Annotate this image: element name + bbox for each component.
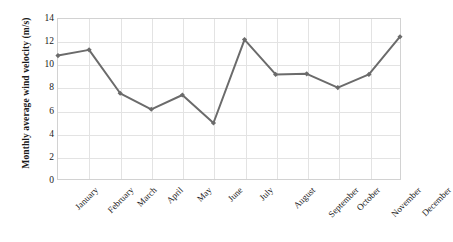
x-tick-label: December bbox=[420, 185, 453, 218]
y-tick-label: 6 bbox=[36, 106, 54, 116]
series-polyline bbox=[58, 37, 400, 123]
y-tick-label: 0 bbox=[36, 175, 54, 185]
x-tick-label: April bbox=[164, 185, 185, 206]
y-axis-title: Monthly average wind velocity (m/s) bbox=[18, 0, 34, 188]
y-tick-label: 12 bbox=[36, 36, 54, 46]
y-axis-tick-labels: 02468101214 bbox=[36, 12, 54, 184]
plot-area bbox=[57, 18, 401, 180]
x-tick-label: February bbox=[106, 185, 136, 215]
x-tick-label: July bbox=[257, 185, 275, 203]
x-tick-label: October bbox=[355, 185, 383, 213]
y-tick-label: 4 bbox=[36, 129, 54, 139]
x-tick-label: August bbox=[292, 185, 317, 210]
x-axis-tick-labels: JanuaryFebruaryMarchAprilMayJuneJulyAugu… bbox=[57, 181, 401, 242]
x-tick-label: September bbox=[326, 185, 360, 219]
x-tick-label: January bbox=[73, 185, 100, 212]
x-tick-label: March bbox=[134, 185, 158, 209]
series-line bbox=[58, 19, 400, 179]
x-tick-label: November bbox=[389, 185, 423, 219]
y-tick-label: 2 bbox=[36, 152, 54, 162]
y-tick-label: 8 bbox=[36, 82, 54, 92]
data-point-marker bbox=[55, 53, 60, 58]
y-tick-label: 14 bbox=[36, 13, 54, 23]
y-tick-label: 10 bbox=[36, 59, 54, 69]
x-tick-label: May bbox=[195, 185, 214, 204]
x-tick-label: June bbox=[226, 185, 245, 204]
